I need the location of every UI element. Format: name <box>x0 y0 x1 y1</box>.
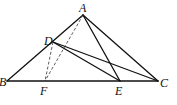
segment-AB <box>7 15 83 81</box>
label-C: C <box>160 76 169 90</box>
segment-AE <box>83 15 120 81</box>
label-E: E <box>114 84 123 98</box>
label-A: A <box>78 1 87 15</box>
label-B: B <box>0 75 7 89</box>
label-D: D <box>43 34 53 48</box>
geometry-figure: A D B F E C <box>0 0 177 105</box>
segment-DE <box>53 42 120 81</box>
segment-DC <box>53 42 158 81</box>
label-F: F <box>39 84 48 98</box>
segment-AC <box>83 15 158 81</box>
